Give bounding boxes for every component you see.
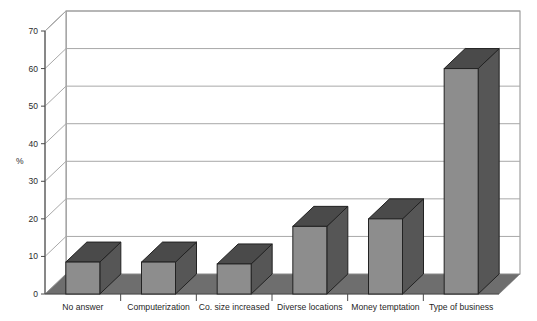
bar-chart-figure: 010203040506070%No answerComputerization…	[0, 0, 537, 321]
bar-6[interactable]	[444, 49, 499, 294]
y-tick-label: 20	[29, 214, 39, 224]
bar-4[interactable]	[293, 206, 348, 294]
bar-front-face	[66, 262, 100, 294]
x-axis-label: Money temptation	[351, 302, 420, 312]
bar-front-face	[217, 264, 251, 294]
x-axis-label: Diverse locations	[277, 302, 342, 312]
x-axis-label: Type of business	[429, 302, 494, 312]
chart-left-wall	[45, 11, 66, 294]
bar-front-face	[293, 226, 327, 294]
x-axis-label: Co. size increased	[199, 302, 270, 312]
chart-canvas: 010203040506070%No answerComputerization…	[0, 0, 537, 321]
y-axis-title: %	[16, 156, 24, 166]
y-tick-label: 30	[29, 176, 39, 186]
bar-front-face	[142, 262, 176, 294]
x-axis-label: Computerization	[127, 302, 190, 312]
bar-front-face	[369, 219, 403, 294]
bar-side-face	[478, 49, 499, 294]
x-axis-label: No answer	[62, 302, 103, 312]
y-tick-label: 40	[29, 139, 39, 149]
x-tick-marks	[121, 294, 424, 301]
y-tick-label: 50	[29, 101, 39, 111]
x-axis-labels: No answerComputerizationCo. size increas…	[62, 302, 493, 312]
y-tick-label: 0	[33, 289, 38, 299]
bar-5[interactable]	[369, 199, 424, 294]
y-tick-label: 10	[29, 251, 39, 261]
bar-front-face	[444, 69, 478, 294]
y-tick-label: 60	[29, 64, 39, 74]
y-tick-label: 70	[29, 26, 39, 36]
